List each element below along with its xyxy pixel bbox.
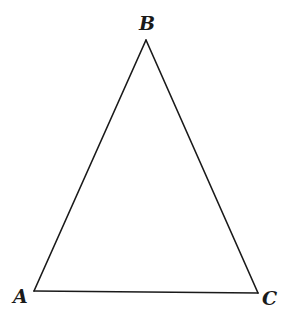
edge-ca bbox=[34, 291, 258, 293]
triangle-drawing bbox=[0, 0, 300, 326]
vertex-label-b: B bbox=[139, 14, 155, 33]
edge-bc bbox=[146, 40, 258, 293]
vertex-label-a: A bbox=[13, 287, 28, 306]
edge-ab bbox=[34, 40, 146, 291]
triangle-figure: B A C bbox=[0, 0, 300, 326]
vertex-label-c: C bbox=[262, 289, 277, 308]
